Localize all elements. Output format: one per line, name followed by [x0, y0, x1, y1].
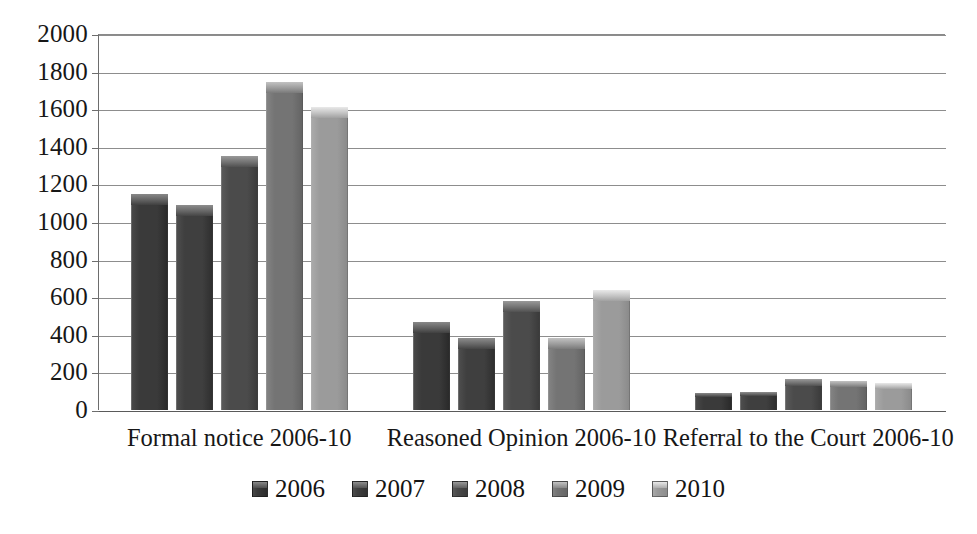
y-tick-label-1200: 1200 [4, 171, 88, 196]
bars-layer [98, 34, 945, 410]
y-tick-label-400: 400 [4, 322, 88, 347]
bar-top-bevel [830, 381, 867, 387]
legend-label: 2006 [275, 476, 325, 501]
y-axis: 2000180016001400120010008006004002000 [0, 34, 88, 410]
bar-face [221, 156, 258, 410]
legend-item-2008[interactable]: 2008 [452, 476, 525, 501]
bar-top-bevel [176, 205, 213, 216]
bar-top-bevel [695, 393, 732, 397]
bar-top-bevel [458, 338, 495, 349]
bar-2006-group-1 [131, 194, 168, 410]
chart-legend: 20062007200820092010 [0, 476, 977, 501]
bar-2008-group-2 [503, 301, 540, 410]
category-label-3: Referral to the Court 2006-10 [663, 423, 945, 453]
bar-2009-group-2 [548, 338, 585, 410]
bar-face [593, 290, 630, 410]
legend-label: 2008 [475, 476, 525, 501]
bar-2007-group-3 [740, 392, 777, 410]
bar-face [176, 205, 213, 410]
legend-swatch-icon [652, 481, 668, 497]
y-tick-label-600: 600 [4, 284, 88, 309]
bar-top-bevel [875, 383, 912, 389]
bar-2007-group-2 [458, 338, 495, 410]
legend-swatch-icon [552, 481, 568, 497]
y-tick-label-2000: 2000 [4, 21, 88, 46]
bar-2009-group-1 [266, 82, 303, 410]
legend-label: 2010 [675, 476, 725, 501]
gridline-0 [99, 411, 946, 412]
bar-2008-group-3 [785, 379, 822, 410]
bar-face [266, 82, 303, 410]
bar-top-bevel [785, 379, 822, 386]
category-label-2: Reasoned Opinion 2006-10 [380, 423, 662, 453]
legend-swatch-icon [252, 481, 268, 497]
bar-face [503, 301, 540, 410]
legend-label: 2007 [375, 476, 425, 501]
bar-top-bevel [131, 194, 168, 205]
bar-2008-group-1 [221, 156, 258, 410]
y-tick-label-1600: 1600 [4, 96, 88, 121]
bar-top-bevel [413, 322, 450, 333]
y-tick-0 [92, 411, 99, 412]
legend-item-2009[interactable]: 2009 [552, 476, 625, 501]
bar-top-bevel [503, 301, 540, 312]
legend-swatch-bevel [553, 482, 567, 488]
legend-swatch-bevel [453, 482, 467, 488]
bar-top-bevel [266, 82, 303, 93]
bar-top-bevel [548, 338, 585, 349]
legend-swatch-icon [352, 481, 368, 497]
y-tick-label-1000: 1000 [4, 209, 88, 234]
legend-label: 2009 [575, 476, 625, 501]
bar-chart: 2000180016001400120010008006004002000 Fo… [0, 0, 977, 534]
bar-2007-group-1 [176, 205, 213, 410]
legend-swatch-bevel [353, 482, 367, 488]
bar-face [311, 107, 348, 410]
bar-top-bevel [311, 107, 348, 118]
bar-2006-group-2 [413, 322, 450, 410]
bar-2009-group-3 [830, 381, 867, 410]
legend-item-2010[interactable]: 2010 [652, 476, 725, 501]
bar-2006-group-3 [695, 393, 732, 410]
legend-item-2006[interactable]: 2006 [252, 476, 325, 501]
legend-swatch-bevel [253, 482, 267, 488]
y-tick-label-800: 800 [4, 247, 88, 272]
bar-2010-group-1 [311, 107, 348, 410]
bar-face [413, 322, 450, 410]
category-label-1: Formal notice 2006-10 [98, 423, 380, 453]
bar-2010-group-2 [593, 290, 630, 410]
bar-top-bevel [740, 392, 777, 396]
y-tick-label-1800: 1800 [4, 59, 88, 84]
legend-item-2007[interactable]: 2007 [352, 476, 425, 501]
legend-swatch-icon [452, 481, 468, 497]
bar-top-bevel [593, 290, 630, 301]
bar-2010-group-3 [875, 383, 912, 410]
y-tick-label-200: 200 [4, 359, 88, 384]
bar-face [131, 194, 168, 410]
y-tick-label-1400: 1400 [4, 134, 88, 159]
legend-swatch-bevel [653, 482, 667, 488]
y-tick-label-0: 0 [4, 397, 88, 422]
bar-top-bevel [221, 156, 258, 167]
